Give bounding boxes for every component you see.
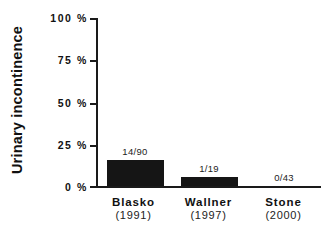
- bar-wallner: [181, 177, 238, 186]
- x-axis-category-labels: Blasko (1991) Wallner (1997) Stone (2000…: [96, 196, 321, 244]
- x-axis-category-stone: Stone (2000): [246, 196, 321, 244]
- x-axis-category-blasko: Blasko (1991): [96, 196, 171, 244]
- x-axis-category-wallner: Wallner (1997): [171, 196, 246, 244]
- x-axis-category-year-stone: (2000): [246, 208, 321, 223]
- bar-value-label-wallner: 1/19: [172, 164, 246, 174]
- x-axis-category-year-wallner: (1997): [171, 208, 246, 223]
- bar-chart: Urinary incontinence 100 % 75 % 50 % 25 …: [0, 0, 329, 248]
- bar-value-label-stone: 0/43: [247, 173, 321, 183]
- x-axis-category-name-stone: Stone: [246, 196, 321, 208]
- bar-blasko: [107, 160, 164, 186]
- x-axis-category-name-blasko: Blasko: [96, 196, 171, 208]
- x-axis-category-year-blasko: (1991): [96, 208, 171, 223]
- x-axis-category-name-wallner: Wallner: [171, 196, 246, 208]
- bar-value-label-blasko: 14/90: [98, 147, 172, 157]
